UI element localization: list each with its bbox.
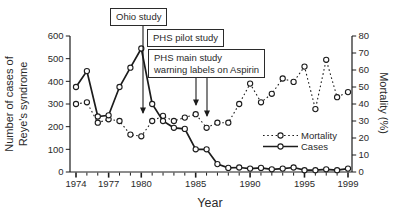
right-axis-tick-label: 40: [359, 98, 370, 109]
x-axis-tick-label: 1999: [337, 178, 358, 189]
cases-point: [324, 167, 329, 172]
legend-mortality-label: Mortality: [301, 130, 337, 141]
mortality-point: [324, 57, 329, 62]
right-axis-tick-label: 30: [359, 115, 370, 126]
mortality-point: [313, 107, 318, 112]
left-axis-tick-label: 200: [48, 121, 64, 132]
x-axis-tick-label: 1977: [98, 178, 119, 189]
legend-mortality-marker: [278, 133, 283, 138]
left-axis-tick-label: 400: [48, 76, 64, 87]
mortality-point: [269, 91, 274, 96]
mortality-point: [302, 64, 307, 69]
left-axis-tick-label: 300: [48, 98, 64, 109]
cases-point: [182, 126, 187, 131]
phs-pilot-study-annotation: PHS pilot study: [147, 29, 224, 47]
cases-point: [171, 125, 176, 130]
x-axis-tick-label: 1974: [65, 178, 86, 189]
mortality-point: [248, 81, 253, 86]
x-axis-tick-label: 1990: [240, 178, 261, 189]
mortality-point: [182, 115, 187, 120]
mortality-point: [215, 120, 220, 125]
cases-point: [106, 113, 111, 118]
left-axis-tick-label: 100: [48, 144, 64, 155]
mortality-point: [171, 118, 176, 123]
phs-main-study-annotation: PHS main study warning labels on Aspirin: [148, 49, 265, 78]
left-axis-title: Number of cases of Reye's syndrome: [3, 24, 31, 184]
cases-point: [117, 84, 122, 89]
left-axis-title-line2: Reye's syndrome: [17, 24, 31, 184]
legend-cases-label: Cases: [301, 141, 328, 152]
mortality-point: [237, 101, 242, 106]
cases-point: [215, 162, 220, 167]
cases-point: [345, 166, 350, 171]
mortality-point: [345, 90, 350, 95]
cases-point: [193, 147, 198, 152]
cases-point: [269, 167, 274, 172]
cases-point: [73, 84, 78, 89]
right-axis-tick-label: 60: [359, 64, 370, 75]
phs-main-study-line1: PHS main study: [154, 52, 259, 64]
x-axis-tick-label: 1995: [294, 178, 315, 189]
mortality-point: [204, 125, 209, 130]
right-axis-title: Mortality (%): [377, 58, 391, 148]
legend-cases-marker: [278, 144, 283, 149]
x-axis-tick-label: 1985: [185, 178, 206, 189]
cases-point: [237, 165, 242, 170]
cases-point: [258, 165, 263, 170]
cases-point: [291, 165, 296, 170]
x-axis-tick-label: 1980: [131, 178, 152, 189]
cases-point: [95, 114, 100, 119]
left-axis-tick-label: 600: [48, 30, 64, 41]
mortality-point: [84, 100, 89, 105]
mortality-point: [150, 118, 155, 123]
cases-point: [160, 118, 165, 123]
mortality-point: [226, 120, 231, 125]
mortality-point: [95, 120, 100, 125]
ohio-study-annotation: Ohio study: [110, 8, 167, 26]
cases-point: [226, 165, 231, 170]
cases-point: [335, 168, 340, 173]
cases-point: [302, 168, 307, 173]
mortality-point: [193, 112, 198, 117]
x-axis-title: Year: [140, 196, 280, 210]
mortality-point: [280, 76, 285, 81]
left-axis-tick-label: 0: [58, 166, 63, 177]
right-axis-tick-label: 10: [359, 149, 370, 160]
mortality-point: [139, 134, 144, 139]
left-axis-tick-label: 500: [48, 53, 64, 64]
mortality-point: [73, 101, 78, 106]
right-axis-tick-label: 80: [359, 30, 370, 41]
cases-point: [280, 166, 285, 171]
cases-point: [248, 166, 253, 171]
right-axis-tick-label: 50: [359, 81, 370, 92]
mortality-point: [117, 118, 122, 123]
mortality-point: [258, 100, 263, 105]
mortality-point: [335, 95, 340, 100]
cases-point: [150, 101, 155, 106]
reyes-syndrome-figure: 0100200300400500600010203040506070801974…: [0, 0, 403, 215]
cases-point: [128, 65, 133, 70]
phs-main-study-line2: warning labels on Aspirin: [154, 64, 259, 76]
cases-point: [313, 168, 318, 173]
cases-point: [204, 147, 209, 152]
right-axis-tick-label: 70: [359, 47, 370, 58]
mortality-point: [128, 132, 133, 137]
left-axis-title-line1: Number of cases of: [3, 24, 17, 184]
mortality-point: [291, 79, 296, 84]
cases-point: [84, 69, 89, 74]
right-axis-tick-label: 20: [359, 132, 370, 143]
right-axis-tick-label: 0: [359, 166, 364, 177]
